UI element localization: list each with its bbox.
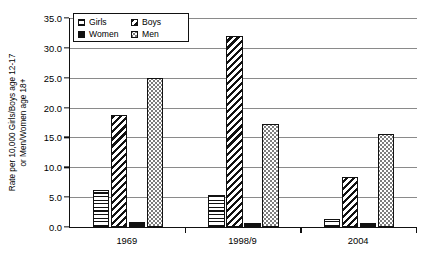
bar-girls-1998-9 — [208, 195, 225, 227]
plot-area — [69, 18, 417, 228]
y-tick-label: 30.0 — [22, 42, 62, 53]
y-tick-label: 25.0 — [22, 72, 62, 83]
gridline — [70, 78, 417, 79]
legend-swatch-women-icon — [78, 31, 85, 38]
bar-girls-2004 — [324, 219, 341, 227]
y-tick-label: 0.0 — [22, 222, 62, 233]
y-tick-label: 10.0 — [22, 162, 62, 173]
legend-item-girls: Girls — [78, 18, 131, 27]
bar-men-2004 — [378, 134, 395, 227]
legend-item-men: Men — [131, 30, 184, 39]
bar-women-2004 — [360, 223, 377, 227]
bar-boys-1969 — [111, 115, 128, 227]
x-tick-label: 2004 — [348, 235, 369, 246]
x-axis-end-tick — [416, 228, 417, 233]
legend-label-girls: Girls — [89, 18, 107, 27]
bar-boys-2004 — [342, 177, 359, 227]
legend-swatch-boys-icon — [131, 19, 138, 26]
x-tick-mark — [185, 228, 186, 233]
bar-women-1969 — [129, 222, 146, 227]
legend-label-women: Women — [89, 30, 118, 39]
bar-men-1998-9 — [262, 124, 279, 227]
x-tick-label: 1998/9 — [228, 235, 257, 246]
y-tick-label: 35.0 — [22, 13, 62, 24]
bar-women-1998-9 — [244, 223, 261, 227]
gridline — [70, 48, 417, 49]
x-tick-label: 1969 — [116, 235, 137, 246]
bar-girls-1969 — [93, 190, 110, 227]
bar-men-1969 — [147, 78, 164, 227]
y-tick-label: 20.0 — [22, 102, 62, 113]
legend-item-women: Women — [78, 30, 131, 39]
y-tick-label: 15.0 — [22, 132, 62, 143]
bar-boys-1998-9 — [226, 36, 243, 227]
legend-swatch-girls-icon — [78, 19, 85, 26]
legend-row-1: Girls Boys — [78, 16, 184, 28]
legend-swatch-men-icon — [131, 31, 138, 38]
legend: Girls Boys Women Men — [73, 13, 189, 42]
bar-chart: Rate per 10,000 Girls/Boys age 12-17 or … — [0, 0, 434, 265]
legend-row-2: Women Men — [78, 28, 184, 40]
gridline — [70, 108, 417, 109]
legend-label-men: Men — [142, 30, 159, 39]
legend-label-boys: Boys — [142, 18, 161, 27]
x-tick-mark — [300, 228, 301, 233]
legend-item-boys: Boys — [131, 18, 184, 27]
y-tick-label: 5.0 — [22, 192, 62, 203]
